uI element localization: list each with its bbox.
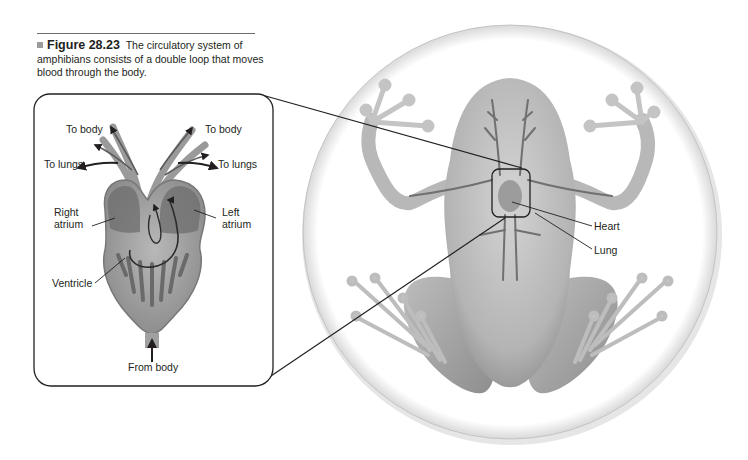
label-to-body-left: To body	[66, 123, 103, 135]
diagram-artwork	[0, 0, 748, 460]
frog-circle-view	[302, 25, 722, 445]
label-to-lungs-right: To lungs	[218, 158, 257, 170]
frog-heart	[498, 180, 522, 212]
label-to-body-right: To body	[205, 123, 242, 135]
label-to-lungs-left: To lungs	[44, 158, 83, 170]
label-from-body: From body	[128, 361, 178, 373]
label-left-atrium: Left atrium	[222, 206, 251, 230]
label-ventricle: Ventricle	[52, 277, 92, 289]
label-lung: Lung	[594, 244, 617, 256]
label-heart: Heart	[594, 220, 620, 232]
label-right-atrium: Right atrium	[54, 206, 83, 230]
